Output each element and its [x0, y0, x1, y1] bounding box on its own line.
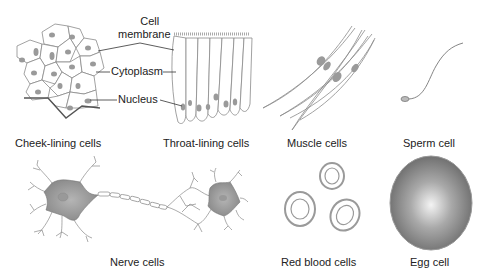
- caption-cheek-lining-cells: Cheek-lining cells: [15, 137, 101, 149]
- egg-cell-illustration: [390, 156, 472, 250]
- caption-red-blood-cells: Red blood cells: [281, 256, 356, 268]
- caption-nerve-cells: Nerve cells: [110, 256, 164, 268]
- caption-throat-lining-cells: Throat-lining cells: [163, 137, 249, 149]
- nerve-cells-illustration: [28, 156, 248, 242]
- cell-membrane-label-line2: membrane: [118, 28, 171, 41]
- red-blood-cells-illustration: [285, 163, 365, 236]
- caption-muscle-cells: Muscle cells: [287, 137, 347, 149]
- cell-membrane-label-line1: Cell: [118, 15, 171, 28]
- cytoplasm-label: Cytoplasm: [111, 65, 163, 77]
- muscle-cells-illustration: [263, 26, 375, 130]
- caption-egg-cell: Egg cell: [410, 256, 449, 268]
- caption-sperm-cell: Sperm cell: [403, 137, 455, 149]
- nucleus-label: Nucleus: [118, 93, 158, 105]
- cell-membrane-label: Cell membrane: [118, 15, 171, 41]
- sperm-cell-illustration: [401, 43, 463, 102]
- cheek-lining-cells-illustration: [17, 24, 104, 118]
